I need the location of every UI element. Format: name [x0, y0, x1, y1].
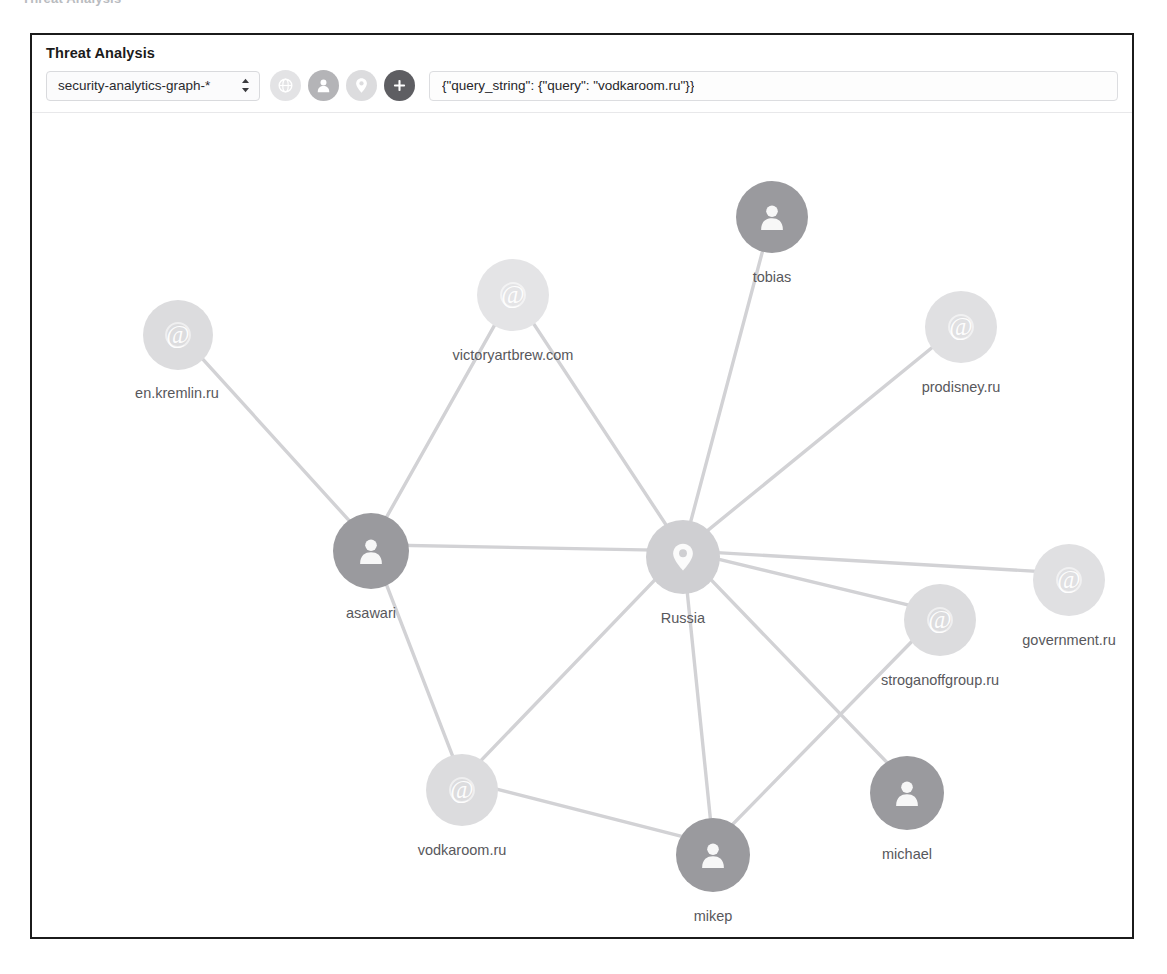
add-icon-button[interactable]: [384, 70, 415, 101]
@-icon: @: [944, 310, 978, 344]
panel-header: Threat Analysis: [32, 35, 1132, 61]
cropped-header-text: Threat Analysis: [22, 0, 121, 6]
graph-edge[interactable]: [683, 551, 907, 784]
graph-edge[interactable]: [178, 332, 371, 545]
graph-edge[interactable]: [683, 551, 940, 613]
@-icon: @: [1052, 563, 1086, 597]
location-icon-button[interactable]: [346, 70, 377, 101]
graph-toolbar: security-analytics-graph-*: [32, 61, 1132, 113]
page-title: Threat Analysis: [46, 45, 1118, 61]
person-icon: [755, 200, 789, 234]
graph-node-victoryartbrew.com[interactable]: @: [477, 259, 549, 331]
pin-icon: [353, 77, 370, 94]
network-icon-button[interactable]: [270, 70, 301, 101]
graph-edge[interactable]: [683, 324, 961, 551]
graph-node-vodkaroom.ru[interactable]: @: [426, 754, 498, 826]
@-icon: @: [161, 318, 195, 352]
person-icon-button[interactable]: [308, 70, 339, 101]
graph-edge[interactable]: [683, 551, 713, 845]
person-icon: [315, 77, 332, 94]
graph-edge[interactable]: [513, 292, 683, 550]
person-icon: [890, 776, 924, 810]
graph-node-stroganoffgroup.ru[interactable]: @: [904, 584, 976, 656]
index-pattern-value: security-analytics-graph-*: [58, 78, 210, 93]
graph-node-mikep[interactable]: [676, 818, 750, 892]
graph-node-government.ru[interactable]: @: [1033, 544, 1105, 616]
globe-icon: [277, 77, 294, 94]
threat-analysis-panel: Threat Analysis security-analytics-graph…: [30, 33, 1134, 939]
graph-edge[interactable]: [462, 551, 683, 781]
graph-canvas[interactable]: @en.kremlin.ru@victoryartbrew.comtobias@…: [32, 113, 1132, 937]
graph-node-Russia[interactable]: [646, 520, 720, 594]
graph-node-en.kremlin.ru[interactable]: @: [143, 300, 213, 370]
query-input[interactable]: {"query_string": {"query": "vodkaroom.ru…: [429, 71, 1118, 101]
graph-node-asawari[interactable]: [333, 513, 409, 589]
entity-type-filter-buttons: [270, 70, 415, 101]
graph-edge[interactable]: [683, 551, 1069, 574]
graph-node-prodisney.ru[interactable]: @: [925, 291, 997, 363]
@-icon: @: [496, 278, 530, 312]
pin-icon: [666, 540, 700, 574]
graph-edge[interactable]: [371, 545, 683, 551]
graph-node-michael[interactable]: [870, 756, 944, 830]
index-pattern-select[interactable]: security-analytics-graph-*: [46, 71, 260, 101]
graph-edge[interactable]: [462, 780, 713, 844]
graph-edge[interactable]: [683, 216, 772, 551]
graph-node-tobias[interactable]: [736, 181, 808, 253]
graph-edge-layer: [32, 113, 1132, 937]
query-input-value: {"query_string": {"query": "vodkaroom.ru…: [442, 78, 694, 93]
person-icon: [354, 534, 388, 568]
graph-edge[interactable]: [371, 292, 513, 544]
@-icon: @: [923, 603, 957, 637]
spinner-up-down-icon: [241, 78, 250, 93]
@-icon: @: [445, 773, 479, 807]
person-icon: [696, 838, 730, 872]
plus-icon: [392, 78, 407, 93]
